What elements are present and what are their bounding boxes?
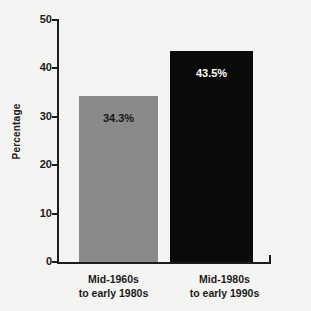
bar-mid-1960s[interactable]: 34.3% xyxy=(79,96,158,262)
y-axis-tick-label: 50 xyxy=(8,14,52,25)
plot-area: 34.3% 43.5% xyxy=(57,20,270,262)
category-label-line: Mid-1960s xyxy=(57,272,170,286)
x-axis-line xyxy=(57,262,271,264)
category-label-line: to early 1990s xyxy=(168,286,281,300)
y-axis-title: Percentage xyxy=(6,0,28,262)
x-axis-category-label-1: Mid-1980s to early 1990s xyxy=(168,272,281,300)
y-axis-tick-label: 0 xyxy=(8,256,52,267)
y-axis-tick-label: 30 xyxy=(8,111,52,122)
y-axis-tick-label: 10 xyxy=(8,208,52,219)
y-axis-tick-label: 40 xyxy=(8,62,52,73)
x-axis-category-label-0: Mid-1960s to early 1980s xyxy=(57,272,170,300)
category-label-line: Mid-1980s xyxy=(168,272,281,286)
bar-value-label: 34.3% xyxy=(79,113,158,124)
y-axis-tick-label: 20 xyxy=(8,159,52,170)
bar-chart: Percentage 01020304050 34.3% 43.5% Mid-1… xyxy=(0,0,311,311)
category-label-line: to early 1980s xyxy=(57,286,170,300)
bar-mid-1980s[interactable]: 43.5% xyxy=(170,51,253,262)
bar-value-label: 43.5% xyxy=(170,68,253,79)
